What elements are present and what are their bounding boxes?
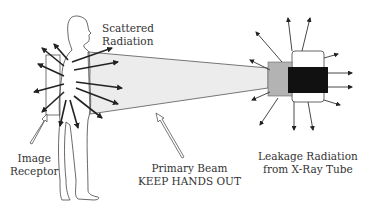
- label-line: Receptor: [10, 165, 59, 178]
- label-line: Scattered: [102, 22, 154, 35]
- tube-core: [288, 67, 328, 93]
- receptor-pointer-arrow: [30, 114, 47, 144]
- radiation-diagram: Scattered Radiation Image Receptor Prima…: [0, 0, 372, 222]
- diagram-graphic: [0, 0, 372, 222]
- label-line: Leakage Radiation: [258, 150, 358, 163]
- image-receptor-label: Image Receptor: [10, 152, 59, 178]
- scattered-radiation-label: Scattered Radiation: [102, 22, 154, 48]
- leakage-radiation-label: Leakage Radiation from X-Ray Tube: [258, 150, 358, 176]
- label-line: Radiation: [102, 35, 154, 48]
- beam-pointer-arrow: [156, 113, 184, 158]
- label-line: Image: [10, 152, 59, 165]
- label-line: Primary Beam: [138, 162, 241, 175]
- primary-beam-label: Primary Beam KEEP HANDS OUT: [138, 162, 241, 188]
- primary-beam: [88, 52, 268, 114]
- label-line: from X-Ray Tube: [258, 163, 358, 176]
- label-line: KEEP HANDS OUT: [138, 175, 241, 188]
